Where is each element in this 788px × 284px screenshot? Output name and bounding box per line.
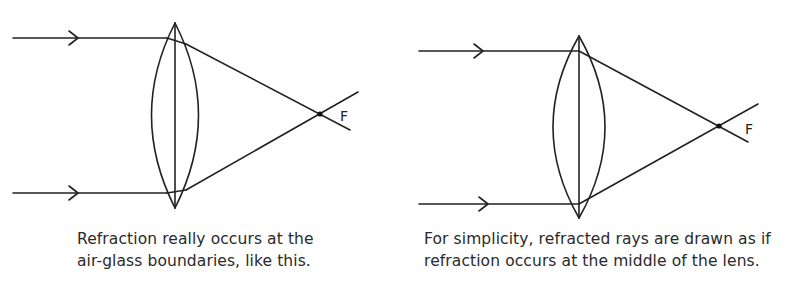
left-panel [13, 23, 358, 208]
caption-left: Refraction really occurs at the air-glas… [77, 228, 314, 272]
convex-lens-left [152, 23, 199, 208]
refracted-ray-bottom [579, 104, 758, 204]
right-panel [419, 36, 758, 218]
caption-right: For simplicity, refracted rays are drawn… [424, 228, 771, 272]
caption-line: Refraction really occurs at the [77, 228, 314, 250]
convex-lens-right [553, 36, 605, 218]
focal-label-right: F [745, 121, 753, 137]
focal-point-right [716, 123, 721, 128]
lens-left-surface [152, 23, 176, 208]
lens-right-surface [175, 23, 199, 208]
focal-point-left [317, 111, 322, 116]
focal-label-left: F [340, 108, 348, 124]
lens-left-surface [553, 36, 579, 218]
refracted-ray-top [186, 44, 350, 130]
caption-line: For simplicity, refracted rays are drawn… [424, 228, 771, 250]
caption-line: air-glass boundaries, like this. [77, 250, 314, 272]
caption-line: refraction occurs at the middle of the l… [424, 250, 771, 272]
refracted-ray-bottom [186, 92, 358, 190]
